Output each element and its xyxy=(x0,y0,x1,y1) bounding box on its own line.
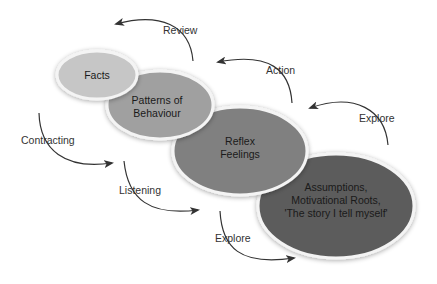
action-label: Action xyxy=(266,64,295,76)
listening-label: Listening xyxy=(119,184,161,196)
patterns-label: Patterns of Behaviour xyxy=(132,94,183,120)
contracting-label: Contracting xyxy=(21,134,75,146)
explore-bottom-label: Explore xyxy=(215,232,251,244)
review-label: Review xyxy=(163,24,197,36)
facts-label: Facts xyxy=(84,69,110,82)
reflex-label: Reflex Feelings xyxy=(220,135,260,161)
assumptions-label: Assumptions, Motivational Roots, 'The st… xyxy=(284,181,387,220)
explore-top-label: Explore xyxy=(359,112,395,124)
